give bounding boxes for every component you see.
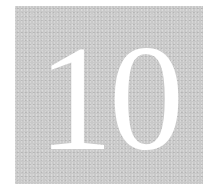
- chapter-number-tile: 10: [15, 6, 203, 184]
- chapter-number: 10: [15, 28, 203, 168]
